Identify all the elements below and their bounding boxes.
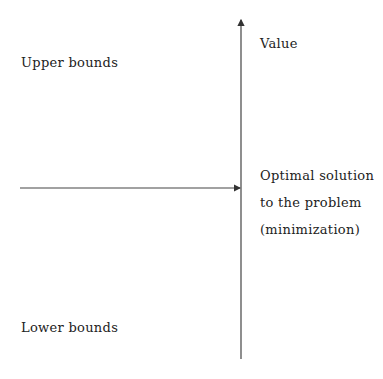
optimal-label-line-3: (minimization) [260, 216, 360, 243]
value-axis-label: Value [260, 30, 298, 57]
optimal-label-line-1: Optimal solution [260, 162, 374, 189]
optimal-label-line-2: to the problem [260, 189, 362, 216]
upper-bounds-label: Upper bounds [21, 49, 118, 76]
lower-bounds-label: Lower bounds [21, 314, 118, 341]
